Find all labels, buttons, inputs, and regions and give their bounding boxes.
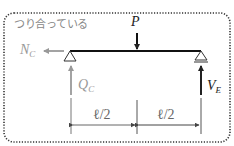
diagram-title: つり合っている — [14, 15, 88, 31]
pin-support-icon — [64, 51, 76, 61]
roller-support-icon — [195, 51, 207, 60]
dimension-label-1: ℓ/2 — [93, 107, 111, 123]
shear-force-label: QC — [78, 77, 94, 94]
dotted-border — [4, 13, 230, 142]
dimension-label-2: ℓ/2 — [157, 107, 175, 123]
normal-force-label: NC — [20, 42, 35, 59]
load-label: P — [131, 14, 140, 30]
reaction-force-label: VE — [207, 78, 221, 95]
